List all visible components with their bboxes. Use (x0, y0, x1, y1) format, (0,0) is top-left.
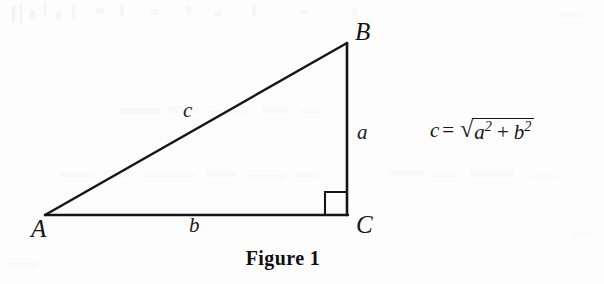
formula-term1-base: a (474, 120, 485, 144)
formula-plus-sign: + (492, 120, 514, 144)
formula-term1-exponent: 2 (485, 118, 492, 134)
right-angle-marker (325, 192, 347, 214)
formula-term2-exponent: 2 (524, 118, 531, 134)
triangle-side-hypotenuse (45, 43, 347, 215)
side-label-hypotenuse-c: c (183, 100, 192, 121)
figure-caption: Figure 1 (0, 247, 566, 270)
side-label-leg-b: b (189, 215, 200, 236)
formula-equals-sign: = (439, 118, 460, 143)
vertex-label-c: C (356, 212, 373, 237)
side-label-leg-a: a (357, 122, 368, 143)
vertex-label-b: B (355, 19, 370, 44)
vertex-label-a: A (31, 216, 46, 241)
formula-term2-base: b (514, 120, 525, 144)
formula-lhs-c: c (430, 118, 439, 143)
pythagorean-formula: c = √ a2+b2 (430, 118, 534, 145)
figure-container: A B C c a b c = √ a2+b2 Figure 1 (0, 0, 604, 284)
formula-radical: √ a2+b2 (460, 118, 534, 145)
formula-radicand: a2+b2 (472, 118, 534, 145)
